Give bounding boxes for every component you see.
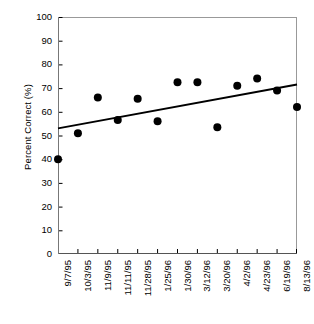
x-tick-label: 4/2/96 [241, 260, 252, 322]
x-tick-label: 3/12/96 [201, 260, 212, 322]
x-tick-label: 1/30/96 [182, 260, 193, 322]
x-tick-label: 8/13/96 [301, 260, 312, 322]
x-axis-tick-labels: 9/7/9510/3/9511/9/9511/11/9511/28/951/25… [0, 0, 314, 324]
x-tick-label: 4/23/96 [261, 260, 272, 322]
x-tick-label: 9/7/95 [62, 260, 73, 322]
x-tick-label: 11/11/95 [122, 260, 133, 322]
x-tick-label: 3/20/96 [221, 260, 232, 322]
x-tick-label: 10/3/95 [82, 260, 93, 322]
x-tick-label: 11/28/95 [142, 260, 153, 322]
scatter-chart: Percent Correct (%) 10090807060504030201… [0, 0, 314, 324]
x-tick-label: 6/19/96 [281, 260, 292, 322]
x-tick-label: 11/9/95 [102, 260, 113, 322]
x-tick-label: 1/25/96 [162, 260, 173, 322]
